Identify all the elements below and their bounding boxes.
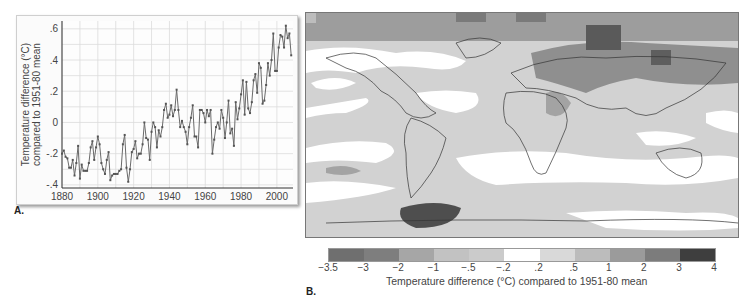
- colorbar-segment: [504, 249, 539, 261]
- colorbar-tick-label: 3: [676, 262, 682, 273]
- colorbar-segment: [645, 249, 680, 261]
- colorbar-tick-label: −3: [357, 262, 368, 273]
- svg-text:.4: .4: [50, 55, 59, 66]
- colorbar-tick-label: .2: [534, 262, 542, 273]
- map-graphic: [306, 13, 738, 237]
- svg-text:-.4: -.4: [46, 179, 58, 190]
- svg-text:1960: 1960: [194, 191, 217, 202]
- colorbar-segment: [610, 249, 645, 261]
- colorbar-segment: [469, 249, 504, 261]
- colorbar-segment: [434, 249, 469, 261]
- colorbar: [328, 248, 716, 262]
- svg-text:compared to 1951-80 mean: compared to 1951-80 mean: [31, 43, 42, 166]
- colorbar-tick-label: 2: [641, 262, 647, 273]
- colorbar-tick-label: .5: [569, 262, 577, 273]
- colorbar-tick-label: −3.5: [318, 262, 338, 273]
- colorbar-tick-label: −.5: [461, 262, 475, 273]
- svg-text:1940: 1940: [158, 191, 181, 202]
- svg-text:.2: .2: [50, 86, 59, 97]
- colorbar-segment: [399, 249, 434, 261]
- colorbar-segment: [329, 249, 364, 261]
- panel-label-a: A.: [14, 205, 24, 216]
- colorbar-tick-label: −1: [428, 262, 439, 273]
- colorbar-segment: [680, 249, 715, 261]
- line-chart-panel: .6.4.20-.2-.4188019001920194019601980200…: [16, 15, 298, 205]
- svg-text:1920: 1920: [123, 191, 146, 202]
- colorbar-tick-label: −2: [392, 262, 403, 273]
- world-temperature-map: [305, 12, 739, 238]
- svg-text:1900: 1900: [87, 191, 110, 202]
- svg-text:0: 0: [52, 117, 58, 128]
- colorbar-tick-label: 4: [711, 262, 717, 273]
- svg-text:1980: 1980: [230, 191, 253, 202]
- svg-text:.6: .6: [50, 23, 59, 34]
- line-chart: .6.4.20-.2-.4188019001920194019601980200…: [17, 16, 297, 204]
- panel-label-b: B.: [306, 286, 316, 297]
- svg-text:1880: 1880: [51, 191, 74, 202]
- colorbar-caption: Temperature difference (°C) compared to …: [386, 275, 647, 287]
- colorbar-segment: [364, 249, 399, 261]
- colorbar-segment: [575, 249, 610, 261]
- svg-text:Temperature difference (°C): Temperature difference (°C): [20, 43, 31, 166]
- svg-text:2000: 2000: [266, 191, 289, 202]
- svg-text:-.2: -.2: [46, 148, 58, 159]
- colorbar-tick-label: 1: [606, 262, 612, 273]
- colorbar-tick-label: −.2: [496, 262, 510, 273]
- colorbar-ticks: −3.5−3−2−1−.5−.2.2.51234: [0, 262, 748, 274]
- colorbar-segment: [540, 249, 575, 261]
